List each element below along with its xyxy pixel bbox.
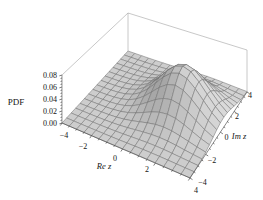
z-axis-tick (59, 87, 62, 88)
box-edge-top-right (128, 13, 247, 50)
z-axis-label: PDF (8, 97, 25, 107)
y-axis-label: Im z (231, 131, 247, 141)
x-tick-label: 2 (145, 165, 149, 174)
z-tick-label: 0.06 (43, 83, 57, 92)
y-axis-minor-tick (213, 143, 214, 144)
x-axis-tick (121, 149, 123, 152)
plot-generated-layer: 0.000.020.040.060.08−4−2024−4−2024 (43, 13, 252, 195)
z-tick-label: 0.04 (43, 95, 57, 104)
x-axis-minor-tick (114, 146, 115, 147)
x-axis-minor-tick (130, 152, 131, 153)
x-axis-minor-tick (146, 160, 147, 161)
y-axis-tick (220, 132, 223, 134)
x-axis-minor-tick (180, 174, 181, 175)
y-axis-minor-tick (217, 138, 218, 139)
y-axis-minor-tick (194, 172, 195, 173)
y-tick-label: −2 (208, 156, 217, 165)
x-axis-label: Re z (96, 161, 112, 171)
z-axis-tick (59, 111, 62, 112)
y-axis-minor-tick (241, 102, 242, 103)
y-axis-minor-tick (237, 106, 238, 107)
z-tick-label: 0.02 (43, 107, 57, 116)
z-tick-label: 0.08 (43, 71, 57, 80)
y-axis-minor-tick (227, 122, 228, 123)
y-tick-label: 2 (235, 112, 239, 121)
x-axis-minor-tick (98, 139, 99, 140)
x-axis-minor-tick (68, 126, 69, 127)
x-axis-minor-tick (76, 129, 77, 130)
y-axis-minor-tick (202, 160, 203, 161)
x-axis-minor-tick (163, 167, 164, 168)
x-axis-minor-tick (106, 142, 107, 143)
y-axis-minor-tick (244, 97, 245, 98)
pdf-surface-figure: 0.000.020.040.060.08−4−2024−4−2024 PDF R… (0, 0, 263, 200)
x-axis-minor-tick (138, 156, 139, 157)
z-axis-tick (59, 99, 62, 100)
x-axis-minor-tick (172, 170, 173, 171)
y-tick-label: 4 (248, 91, 252, 100)
y-tick-label: 0 (225, 133, 229, 142)
x-axis-tick (188, 178, 190, 181)
y-tick-label: −4 (198, 178, 207, 187)
x-tick-label: 0 (113, 154, 117, 163)
x-tick-label: −2 (79, 142, 88, 151)
y-axis-tick (190, 178, 193, 180)
x-axis-tick (90, 136, 92, 139)
z-axis-tick (59, 75, 62, 76)
x-axis-tick (154, 163, 156, 166)
y-axis-minor-tick (224, 127, 225, 128)
y-axis-minor-tick (209, 149, 210, 150)
z-tick-label: 0.00 (43, 119, 57, 128)
y-axis-minor-tick (198, 166, 199, 167)
y-axis-minor-tick (231, 117, 232, 118)
x-axis-minor-tick (83, 132, 84, 133)
x-tick-label: −4 (60, 131, 69, 140)
surface-plot-canvas: 0.000.020.040.060.08−4−2024−4−2024 PDF R… (0, 0, 263, 200)
